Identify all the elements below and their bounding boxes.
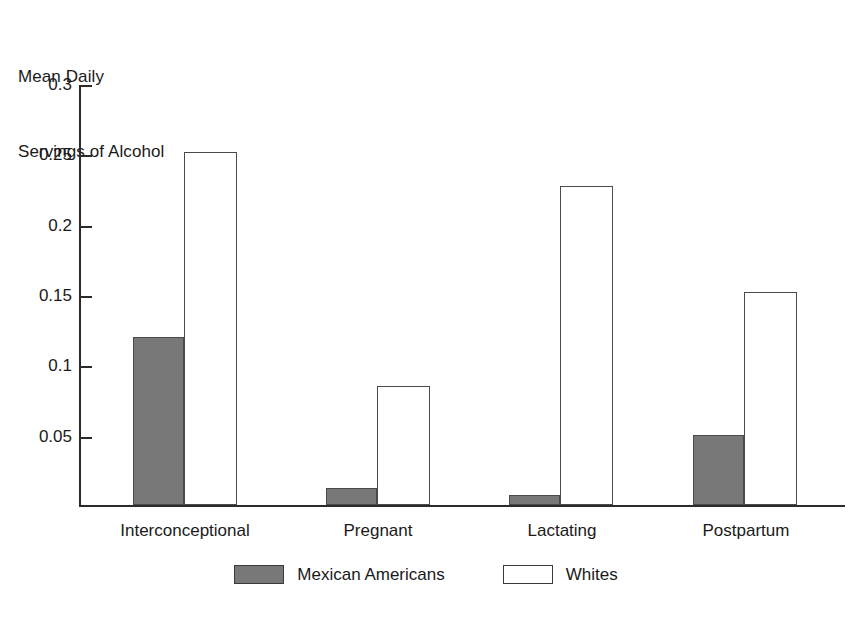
y-tick-label-0.25: 0.25	[39, 146, 72, 163]
x-label-postpartum: Postpartum	[703, 520, 790, 542]
legend-label-whites: Whites	[566, 566, 618, 583]
y-tick-label-0.3: 0.3	[48, 76, 72, 93]
bar-group-pregnant	[326, 85, 430, 505]
y-axis-tick-labels: 0.3 0.25 0.2 0.15 0.1 0.05	[0, 85, 72, 507]
y-tick-label-0.05: 0.05	[39, 428, 72, 445]
legend-item-mexican-americans: Mexican Americans	[234, 565, 444, 584]
bar-interconceptional-whites	[184, 152, 237, 505]
bar-chart: Mean Daily Servings of Alcohol 0.3 0.25 …	[0, 0, 852, 621]
legend-swatch-white-icon	[503, 565, 553, 584]
y-tick-label-0.1: 0.1	[48, 357, 72, 374]
x-label-lactating: Lactating	[528, 520, 597, 542]
bar-pregnant-whites	[377, 386, 430, 505]
x-label-interconceptional: Interconceptional	[120, 520, 249, 542]
bar-series-container	[79, 85, 845, 505]
y-tick-label-0.15: 0.15	[39, 287, 72, 304]
bar-lactating-mexican-americans	[509, 495, 560, 505]
y-tick-label-0.2: 0.2	[48, 217, 72, 234]
bar-group-lactating	[509, 85, 613, 505]
bar-group-interconceptional	[133, 85, 237, 505]
x-axis-category-labels: Interconceptional Pregnant Lactating Pos…	[79, 520, 845, 546]
bar-postpartum-mexican-americans	[693, 435, 744, 505]
x-label-pregnant: Pregnant	[344, 520, 413, 542]
bar-group-postpartum	[693, 85, 797, 505]
plot-area	[79, 85, 845, 507]
legend-item-whites: Whites	[503, 565, 618, 584]
legend-swatch-gray-icon	[234, 565, 284, 584]
bar-lactating-whites	[560, 186, 613, 505]
legend-label-mexican-americans: Mexican Americans	[297, 566, 444, 583]
chart-legend: Mexican Americans Whites	[0, 565, 852, 584]
bar-postpartum-whites	[744, 292, 797, 505]
bar-pregnant-mexican-americans	[326, 488, 377, 505]
bar-interconceptional-mexican-americans	[133, 337, 184, 505]
